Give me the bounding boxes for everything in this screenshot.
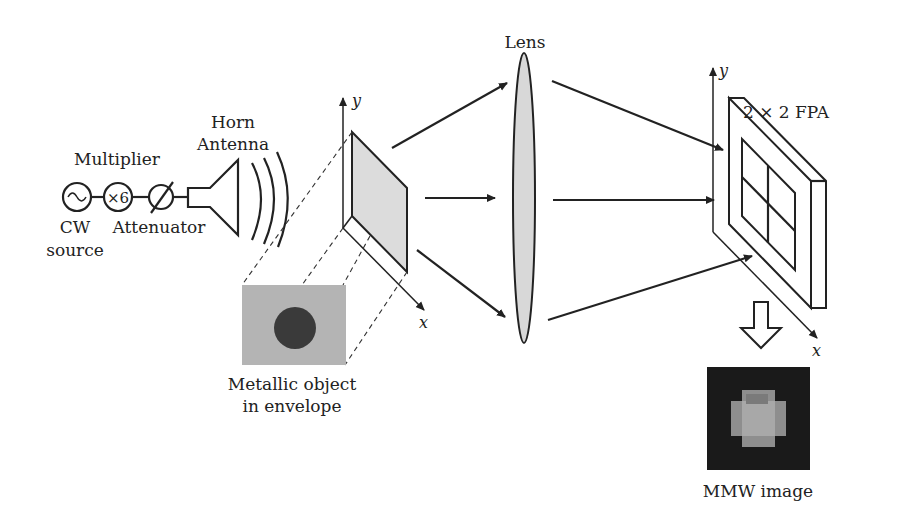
- mmw-image: [707, 367, 810, 470]
- multiplier-label: Multiplier: [74, 149, 161, 169]
- svg-text:x: x: [812, 341, 821, 360]
- attenuator-icon: [149, 182, 173, 213]
- multiplier-icon: ×6: [104, 183, 132, 211]
- fpa-detector: [729, 98, 826, 308]
- source-label: source: [46, 240, 104, 260]
- wave-icon: [252, 152, 288, 247]
- mmw-imaging-diagram: ×6 CW source Multiplier Attenuator Horn …: [0, 0, 907, 523]
- cw-label: CW: [60, 217, 91, 237]
- lens-icon: [513, 53, 535, 343]
- svg-text:×6: ×6: [107, 189, 129, 207]
- svg-text:y: y: [718, 61, 729, 80]
- metallic-object-photo: [242, 285, 346, 365]
- horn-label: Horn: [211, 112, 255, 132]
- lens-label: Lens: [504, 32, 545, 52]
- antenna-label: Antenna: [196, 134, 269, 154]
- svg-text:y: y: [351, 91, 362, 110]
- object-label: Metallic object: [228, 374, 357, 394]
- fpa-label: 2 × 2 FPA: [743, 102, 830, 122]
- cw-source-icon: [63, 183, 91, 211]
- down-arrow-icon: [741, 302, 781, 348]
- envelope-label: in envelope: [242, 396, 341, 416]
- attenuator-label: Attenuator: [112, 217, 207, 237]
- svg-text:x: x: [419, 313, 428, 332]
- mmw-label: MMW image: [703, 481, 813, 501]
- object-plane: y x: [343, 91, 428, 332]
